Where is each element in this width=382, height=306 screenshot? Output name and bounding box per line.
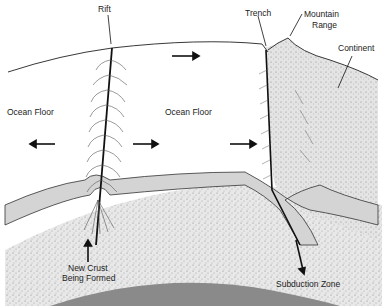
label-mountain: Mountain [304, 9, 339, 19]
label-rift: Rift [98, 4, 111, 14]
mountain-pointer [290, 14, 302, 36]
label-continent: Continent [338, 43, 374, 53]
rift-pointer [108, 15, 111, 44]
label-ocean-floor-center: Ocean Floor [165, 107, 212, 117]
trench-pointer [258, 16, 266, 46]
ocean-surface [8, 42, 268, 72]
label-new-crust: New Crust [68, 263, 108, 273]
label-subduction-zone: Subduction Zone [276, 279, 340, 289]
label-ocean-floor-left: Ocean Floor [7, 107, 54, 117]
label-trench: Trench [245, 8, 271, 18]
tectonics-diagram [0, 0, 382, 306]
label-range: Range [312, 20, 337, 30]
label-being-formed: Being Formed [62, 273, 115, 283]
